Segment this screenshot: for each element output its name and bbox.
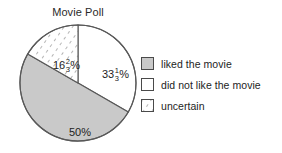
hatched-swatch-icon — [141, 99, 154, 112]
pie-chart-graphic: 1623% 3313% 50% — [17, 20, 141, 146]
legend-item-liked-label: liked the movie — [161, 58, 232, 70]
legend-item-did-not-like: did not like the movie — [141, 74, 282, 95]
slice-label-did-not-like: 3313% — [102, 67, 129, 82]
legend-item-uncertain-label: uncertain — [161, 100, 205, 112]
fraction-denominator: 3 — [115, 75, 119, 83]
chart-legend: liked the movie did not like the movie u… — [141, 53, 282, 116]
hatch-pattern-icon — [142, 100, 154, 112]
slice-label-liked: 50% — [69, 126, 91, 138]
slice-label-uncertain-fraction: 23 — [66, 58, 70, 73]
empty-white-swatch-icon — [141, 78, 154, 91]
legend-item-did-not-like-label: did not like the movie — [161, 79, 261, 91]
slice-label-uncertain-whole: 16 — [53, 60, 65, 71]
slice-label-uncertain-percent: % — [70, 60, 80, 71]
chart-title: Movie Poll — [0, 6, 156, 18]
slice-label-liked-whole: 50 — [69, 127, 81, 138]
legend-item-uncertain: uncertain — [141, 95, 282, 116]
slice-label-uncertain: 1623% — [53, 58, 80, 73]
slice-label-did-not-like-percent: % — [119, 69, 129, 80]
slice-label-did-not-like-whole: 33 — [102, 69, 114, 80]
movie-poll-pie-chart-figure: Movie Poll 1623% 3313% — [0, 0, 282, 153]
solid-gray-swatch-icon — [141, 57, 154, 70]
legend-item-liked: liked the movie — [141, 53, 282, 74]
slice-label-liked-percent: % — [81, 127, 91, 138]
fraction-denominator: 3 — [66, 66, 70, 74]
slice-label-did-not-like-fraction: 13 — [115, 67, 119, 82]
